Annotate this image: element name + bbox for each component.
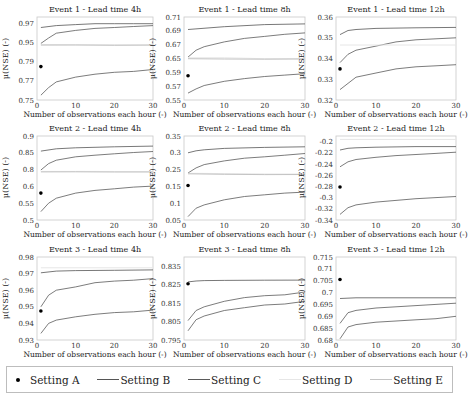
x-tick-label: 0 [182, 222, 186, 230]
x-axis-label: Number of observations each hour (-) [316, 230, 472, 239]
x-tick-label: 0 [334, 222, 338, 230]
x-tick-label: 0 [35, 342, 39, 350]
x-tick-label: 10 [220, 342, 229, 350]
x-tick-label: 20 [412, 222, 421, 230]
series-line-setting-c [41, 26, 153, 44]
legend-label: Setting E [393, 374, 443, 386]
series-line-setting-b [340, 147, 456, 150]
y-tick-label: -0.24 [315, 161, 333, 169]
series-line-setting-c [188, 33, 305, 57]
series-line-setting-c [41, 279, 153, 307]
legend: Setting A Setting B Setting C Setting D … [6, 366, 453, 393]
y-tick-label: 0.825 [161, 281, 181, 289]
x-axis-label: Number of observations each hour (-) [164, 110, 325, 119]
axes-frame [184, 136, 305, 220]
plot-area: 0.930.940.950.960.970.980102030 [37, 257, 153, 340]
x-tick-label: 30 [301, 342, 310, 350]
x-axis-label: Number of observations each hour (-) [164, 350, 325, 359]
x-tick-label: 20 [412, 342, 421, 350]
data-point-setting-a [338, 67, 342, 71]
y-tick-label: -0.2 [320, 138, 334, 146]
series-line-setting-b [340, 298, 456, 299]
y-tick-label: 0.85 [18, 149, 34, 157]
x-tick-label: 20 [110, 342, 119, 350]
y-axis-label: μ(NSE) (-) [1, 148, 10, 208]
y-tick-label: -0.22 [315, 149, 333, 157]
panel-title: Event 2 - Lead time 4h [37, 124, 153, 133]
x-axis-label: Number of observations each hour (-) [17, 230, 173, 239]
series-line-setting-b [188, 147, 305, 153]
dot-marker-icon [16, 378, 20, 382]
x-tick-label: 0 [182, 342, 186, 350]
legend-label: Setting C [211, 374, 261, 386]
series-line-setting-c [188, 154, 305, 174]
legend-label: Setting D [302, 374, 352, 386]
plot-area: 0.7950.8050.8150.8250.8350102030 [184, 257, 305, 340]
line-marker-icon [279, 379, 301, 380]
y-tick-label: 0.98 [18, 254, 34, 262]
panel-title: Event 1 - Lead time 12h [336, 5, 456, 14]
data-point-setting-a [39, 191, 43, 195]
axes-frame [37, 136, 153, 220]
y-axis-label: μ(NSE) (-) [148, 148, 157, 208]
plot-area: 0.680.6850.690.6950.70.7050.710.71501020… [336, 257, 456, 340]
legend-label: Setting B [120, 374, 170, 386]
x-tick-label: 10 [220, 102, 229, 110]
legend-item-setting-e: Setting E [370, 374, 443, 386]
x-tick-label: 30 [301, 222, 310, 230]
legend-item-setting-a: Setting A [16, 374, 80, 386]
y-tick-label: 0.795 [161, 337, 181, 345]
y-axis-label: μ(NSE) (-) [1, 268, 10, 328]
line-marker-icon [370, 379, 392, 380]
y-tick-label: 0.7 [322, 289, 333, 297]
x-tick-label: 10 [220, 222, 229, 230]
y-tick-label: 0.805 [161, 318, 181, 326]
x-tick-label: 30 [452, 102, 461, 110]
axes-frame [336, 136, 456, 220]
panel-title: Event 1 - Lead time 4h [37, 5, 153, 14]
axes-frame [336, 257, 456, 340]
y-tick-label: 0.33 [317, 76, 333, 84]
figure: Event 1 - Lead time 4hNumber of observat… [0, 0, 460, 362]
y-axis-label: μ(NSE) (-) [297, 28, 306, 88]
series-line-setting-b-c-lower [340, 197, 456, 215]
y-tick-label: 0.94 [18, 320, 34, 328]
line-marker-icon [97, 379, 119, 380]
y-tick-label: 0.69 [165, 27, 181, 35]
y-tick-label: 0.71 [317, 265, 333, 273]
series-line-setting-b [41, 270, 153, 273]
y-tick-label: 0.97 [18, 20, 34, 28]
y-tick-label: -0.32 [315, 205, 333, 213]
x-tick-label: 20 [110, 222, 119, 230]
axes-frame [184, 257, 305, 340]
axes-frame [37, 257, 153, 340]
y-tick-label: 0.8 [23, 166, 34, 174]
series-line-setting-b [188, 24, 305, 30]
y-tick-label: 0.79 [18, 58, 34, 66]
y-tick-label: 0.685 [313, 325, 333, 333]
y-tick-label: -0.34 [315, 217, 333, 225]
plot-area: -0.34-0.32-0.3-0.28-0.26-0.24-0.22-0.201… [336, 136, 456, 220]
x-tick-label: 30 [149, 102, 158, 110]
x-tick-label: 0 [35, 222, 39, 230]
y-tick-label: 0.65 [165, 55, 181, 63]
y-tick-label: -0.26 [315, 172, 333, 180]
data-point-setting-a [338, 278, 342, 282]
y-tick-label: 0.25 [165, 166, 181, 174]
series-line-setting-b-c-lower [188, 74, 305, 93]
x-axis-label: Number of observations each hour (-) [316, 350, 472, 359]
series-line-setting-b-c-lower [41, 70, 153, 96]
x-tick-label: 10 [372, 102, 381, 110]
x-axis-label: Number of observations each hour (-) [17, 350, 173, 359]
series-line-setting-b [188, 280, 305, 282]
y-tick-label: 0.9 [23, 133, 34, 141]
y-tick-label: 0.59 [165, 69, 181, 77]
y-tick-label: 0.69 [317, 313, 333, 321]
series-line-setting-b-c-lower [41, 186, 153, 212]
series-line-setting-c [188, 292, 305, 321]
x-tick-label: 10 [71, 102, 80, 110]
y-tick-label: -0.28 [315, 183, 333, 191]
series-line-setting-b-c-lower [340, 316, 456, 339]
y-tick-label: 0.715 [313, 254, 333, 262]
panel-title: Event 3 - Lead time 12h [336, 245, 456, 254]
